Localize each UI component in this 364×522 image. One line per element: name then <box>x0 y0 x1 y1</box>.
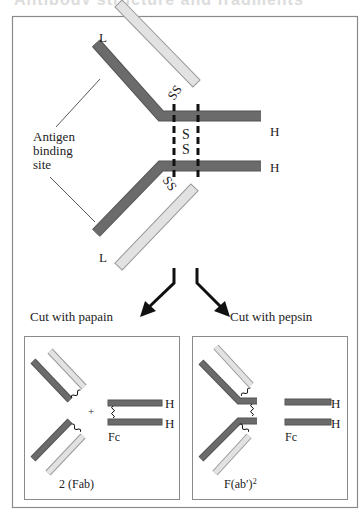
cleavage-arrows <box>140 268 230 317</box>
papain-panel-frame <box>25 337 180 500</box>
pepsin-panel-frame <box>193 337 348 500</box>
fc-disulfide <box>112 406 115 418</box>
heavy-chain-top <box>96 43 261 116</box>
papain-arrow-shaft <box>148 268 174 308</box>
intact-antibody: S S SS SS L L H H Antigen binding site <box>33 7 279 265</box>
disulfide-hinge-s1: S <box>182 127 190 142</box>
cut-pepsin-label: Cut with pepsin <box>230 309 313 324</box>
pepsin-fragment-label: F(ab′)2 <box>224 477 257 491</box>
pepsin-panel: H H Fc F(ab′)2 <box>193 337 348 500</box>
fc-heavy-bottom <box>108 419 162 425</box>
disulfide-light-bottom: SS <box>160 173 181 193</box>
antigen-site-label-line2: binding <box>33 143 73 158</box>
pepsin-fc-heavy-bottom <box>285 419 331 425</box>
disulfide-hinge-s2: S <box>182 142 190 157</box>
papain-h-top: H <box>165 396 174 411</box>
pepsin-fc-label: Fc <box>285 430 297 444</box>
papain-panel: + H H Fc 2 (Fab) <box>25 337 180 500</box>
plus-sign: + <box>88 405 94 417</box>
light-chain-top <box>122 7 193 80</box>
light-chain-label-bottom: L <box>99 250 107 265</box>
pepsin-fc-heavy-top <box>285 399 331 405</box>
outer-frame <box>13 17 358 508</box>
antibody-diagram: S S SS SS L L H H Antigen binding site C… <box>0 0 364 522</box>
pepsin-fragment-main: F(ab′) <box>224 477 253 491</box>
fc-heavy-top <box>108 400 162 406</box>
antigen-site-label-line3: site <box>33 157 51 172</box>
pepsin-arrow-shaft <box>197 268 222 308</box>
heavy-chain-label-bottom: H <box>270 160 279 175</box>
antigen-site-pointer-top <box>56 79 100 127</box>
pepsin-disulfide-top <box>240 387 251 397</box>
heavy-chain-top-outline <box>96 43 261 116</box>
cut-papain-label: Cut with papain <box>30 309 114 324</box>
pepsin-h-top: H <box>331 396 340 411</box>
fab2-disulfide <box>70 423 81 433</box>
papain-fc-label: Fc <box>108 430 120 444</box>
disulfide-light-top: SS <box>164 82 185 102</box>
pepsin-fragment-superscript: 2 <box>253 477 257 486</box>
pepsin-h-bottom: H <box>331 416 340 431</box>
pepsin-hinge-disulfide <box>251 404 254 416</box>
antigen-site-pointer-bottom <box>50 177 95 222</box>
antigen-site-label-line1: Antigen <box>33 129 75 144</box>
papain-h-bottom: H <box>165 416 174 431</box>
papain-fragment-label: 2 (Fab) <box>59 477 94 491</box>
light-chain-label-top: L <box>99 30 107 45</box>
heavy-chain-label-top: H <box>270 124 279 139</box>
